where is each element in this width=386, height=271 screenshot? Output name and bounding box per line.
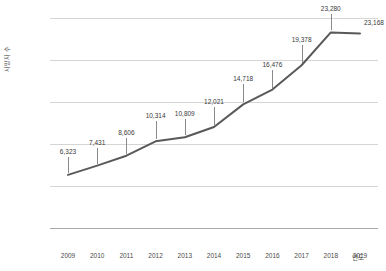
data-point-label: 12,021: [191, 98, 237, 105]
data-point-label: 6,323: [45, 148, 91, 155]
leader-line: [243, 84, 244, 102]
leader-line: [331, 14, 332, 30]
data-point-label: 10,809: [162, 110, 208, 117]
leader-line: [214, 107, 215, 125]
data-point-label: 19,378: [279, 36, 325, 43]
leader-line: [126, 138, 127, 154]
leader-line: [156, 121, 157, 139]
data-point-label: 23,168: [364, 19, 386, 26]
gridline: [50, 228, 378, 229]
data-point-label: 14,718: [220, 75, 266, 82]
data-point-label: 8,606: [103, 129, 149, 136]
leader-line: [97, 148, 98, 164]
plot-area: 05,00010,00015,00020,00025,000 200920102…: [50, 18, 378, 228]
y-axis-title: 사망자 수: [2, 12, 11, 72]
leader-line: [185, 119, 186, 135]
data-point-label: 23,280: [308, 5, 354, 12]
data-point-label: 7,431: [74, 139, 120, 146]
x-axis-title: 연도: [352, 252, 364, 262]
leader-line: [272, 70, 273, 88]
line-chart: 사망자 수 05,00010,00015,00020,00025,000 200…: [0, 0, 386, 271]
leader-line: [68, 157, 69, 173]
leader-line: [302, 45, 303, 63]
data-point-label: 16,476: [249, 61, 295, 68]
